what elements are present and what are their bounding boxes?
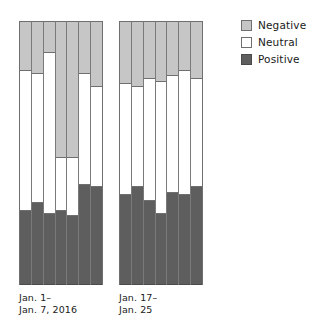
bar-segment-neutral	[56, 158, 67, 211]
bar-segment-positive	[79, 185, 90, 285]
bar-segment-neutral	[20, 71, 31, 211]
bar-segment-negative	[167, 21, 178, 76]
bar-segment-positive	[44, 214, 55, 285]
bar-segment-neutral	[191, 79, 202, 187]
bar-segment-negative	[67, 21, 78, 158]
bar-segment-positive	[132, 187, 143, 285]
bar-segment-positive	[191, 187, 202, 285]
legend-label-neutral: Neutral	[258, 36, 298, 48]
chart-figure: Jan. 1– Jan. 7, 2016 Jan. 17– Jan. 25 Ne…	[0, 0, 313, 327]
legend-label-negative: Negative	[258, 19, 306, 31]
bar-segment-negative	[179, 21, 190, 71]
bar-segment-negative	[191, 21, 202, 79]
bar-segment-positive	[156, 214, 167, 285]
bar-segment-neutral	[144, 79, 155, 200]
legend-item-neutral[interactable]: Neutral	[241, 34, 306, 50]
bar-segment-neutral	[79, 74, 90, 185]
x-axis-label-period-2: Jan. 17– Jan. 25	[119, 292, 157, 315]
bar-segment-positive	[179, 195, 190, 285]
bar-segment-negative	[156, 21, 167, 82]
legend-item-positive[interactable]: Positive	[241, 51, 306, 67]
bar-segment-negative	[91, 21, 102, 87]
x-axis-label-period-1: Jan. 1– Jan. 7, 2016	[19, 292, 77, 315]
bar-segment-positive	[144, 201, 155, 285]
bar-segment-positive	[20, 211, 31, 285]
stacked-bar[interactable]	[190, 21, 203, 285]
bar-segment-positive	[91, 187, 102, 285]
bar-segment-positive	[120, 195, 131, 285]
legend-item-negative[interactable]: Negative	[241, 17, 306, 33]
legend-label-positive: Positive	[258, 53, 300, 65]
bar-segment-negative	[120, 21, 131, 84]
bar-segment-negative	[56, 21, 67, 158]
chart-legend: Negative Neutral Positive	[241, 17, 306, 68]
negative-swatch-icon	[241, 20, 252, 31]
bar-segment-neutral	[44, 53, 55, 214]
bar-segment-neutral	[120, 84, 131, 195]
neutral-swatch-icon	[241, 37, 252, 48]
positive-swatch-icon	[241, 54, 252, 65]
bar-segment-positive	[167, 193, 178, 285]
bar-segment-negative	[32, 21, 43, 74]
bar-segment-neutral	[67, 158, 78, 216]
bar-segment-negative	[79, 21, 90, 74]
bar-segment-neutral	[91, 87, 102, 187]
bar-group-period-1	[19, 21, 103, 285]
stacked-bar[interactable]	[90, 21, 103, 285]
bar-segment-neutral	[132, 87, 143, 187]
bar-segment-positive	[56, 211, 67, 285]
bar-segment-neutral	[156, 82, 167, 214]
bar-segment-negative	[20, 21, 31, 71]
bar-segment-negative	[144, 21, 155, 79]
bar-segment-neutral	[179, 71, 190, 195]
bar-group-period-2	[119, 21, 203, 285]
bar-segment-neutral	[167, 76, 178, 192]
bar-segment-negative	[44, 21, 55, 53]
bar-segment-positive	[67, 216, 78, 285]
bar-segment-positive	[32, 203, 43, 285]
bar-segment-negative	[132, 21, 143, 87]
bar-segment-neutral	[32, 74, 43, 203]
